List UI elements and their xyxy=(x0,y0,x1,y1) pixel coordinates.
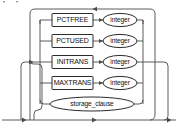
rail-entry-to-junction xyxy=(21,62,33,120)
keyword-label-maxtrans: MAXTRANS xyxy=(54,79,92,86)
argument-label-pctfree-integer: integer xyxy=(110,16,130,24)
scan-artifact xyxy=(3,1,5,2)
keyword-label-pctfree: PCTFREE xyxy=(57,16,89,23)
mid-arrow-initrans-icon xyxy=(99,60,103,64)
loop-back-arrow-left-icon xyxy=(93,7,98,11)
exit-arrow-right-icon xyxy=(92,118,97,123)
argument-label-initrans-integer: integer xyxy=(110,58,130,66)
rail-stub-in-storage xyxy=(40,100,50,104)
entry-arrow-right-icon xyxy=(22,118,27,123)
keyword-label-initrans: INITRANS xyxy=(57,58,89,65)
nonterminal-label-storage-clause: storage_clause xyxy=(70,100,114,108)
argument-label-maxtrans-integer: integer xyxy=(110,79,130,87)
railroad-diagram: PCTFREE integer PCTUSED integer INITRANS… xyxy=(0,0,180,127)
rail-right-to-exit xyxy=(143,62,168,120)
mid-arrow-pctfree-icon xyxy=(99,18,103,22)
syntax-diagram-canvas: PCTFREE integer PCTUSED integer INITRANS… xyxy=(0,0,180,127)
rail-stub-out-storage xyxy=(134,100,143,104)
mid-arrow-maxtrans-icon xyxy=(99,81,103,85)
scan-artifact xyxy=(16,1,18,2)
mid-arrow-pctused-icon xyxy=(99,39,103,43)
argument-label-pctused-integer: integer xyxy=(110,37,130,45)
keyword-label-pctused: PCTUSED xyxy=(56,37,88,44)
